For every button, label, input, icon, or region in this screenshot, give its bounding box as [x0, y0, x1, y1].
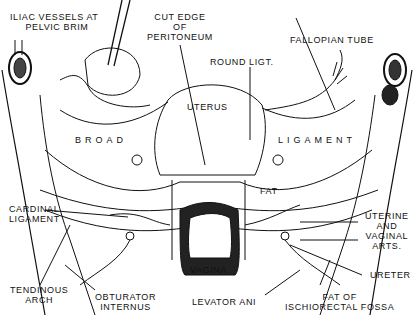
label-obturator-internus: OBTURATOR INTERNUS [95, 292, 156, 312]
label-uterine-vaginal-arteries: UTERINE AND VAGINAL ARTS. [365, 211, 409, 251]
label-fat: FAT [260, 186, 278, 196]
label-fat-ischiorectal-fossa: FAT OF ISCHIORECTAL FOSSA [285, 292, 394, 312]
label-broad: BROAD [75, 135, 127, 145]
label-iliac-vessels: ILIAC VESSELS AT PELVIC BRIM [10, 12, 98, 32]
label-cardinal-ligament: CARDINAL LIGAMENT [9, 204, 60, 224]
label-fallopian-tube: FALLOPIAN TUBE [290, 35, 374, 45]
label-vagina: VAGINA [190, 265, 227, 275]
label-uterus: UTERUS [187, 102, 228, 112]
label-levator-ani: LEVATOR ANI [192, 297, 256, 307]
anatomy-figure: ILIAC VESSELS AT PELVIC BRIM CUT EDGE OF… [0, 0, 414, 315]
label-cut-edge-peritoneum: CUT EDGE OF PERITONEUM [147, 12, 213, 42]
label-ligament: LIGAMENT [278, 135, 356, 145]
label-ureter: URETER [370, 270, 411, 280]
label-round-ligament: ROUND LIGT. [210, 57, 274, 67]
label-tendinous-arch: TENDINOUS ARCH [10, 285, 68, 305]
